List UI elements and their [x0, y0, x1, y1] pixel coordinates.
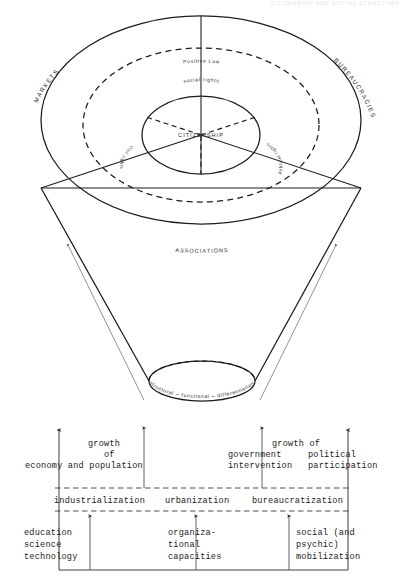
process-bureaucratization: bureaucratization — [252, 496, 343, 506]
cone-side-left — [41, 188, 149, 381]
associations-text: ASSOCIATIONS — [175, 247, 229, 254]
label-civil-rights: civil rights — [119, 145, 134, 170]
growth-economy-line1: growth — [88, 439, 120, 449]
growth-government-line1: growth of — [272, 439, 320, 449]
resource-organizational-line2: tional — [168, 540, 200, 550]
cone-arrow-right — [260, 245, 336, 400]
label-political-rights: political rights — [265, 142, 283, 175]
label-citizenship: CITIZENSHIP — [178, 132, 224, 138]
table-row: industrialization urbanization bureaucra… — [54, 496, 343, 506]
resource-organizational-line1: organiza- — [168, 528, 216, 538]
cone-side-right — [255, 188, 361, 381]
resource-education-line1: education — [24, 528, 72, 538]
table-row: growth of economy and population growth … — [25, 439, 378, 471]
resource-mobilization-line2: psychic) — [296, 540, 339, 550]
growth-economy-line2: of — [104, 450, 115, 460]
resource-education-line3: technology — [24, 552, 78, 562]
growth-economy-line3: economy and population — [25, 461, 143, 471]
political-rights-text: political rights — [265, 142, 283, 175]
cone-base-dashed-arc — [149, 361, 255, 381]
growth-political-line3: participation — [308, 461, 378, 471]
citizenship-text: CITIZENSHIP — [178, 132, 224, 138]
label-associations: ASSOCIATIONS — [175, 247, 229, 254]
resource-education-line2: science — [24, 540, 62, 550]
bureaucracies-text: BUREAUCRACIES — [333, 56, 378, 119]
growth-government-line3: intervention — [228, 461, 292, 471]
resource-mobilization-line1: social (and — [296, 528, 355, 538]
base-text: structural – functional – differentiatio… — [149, 380, 256, 399]
figure-canvas: MARKETS BUREAUCRACIES ASSOCIATIONS Posit… — [0, 0, 402, 586]
process-industrialization: industrialization — [54, 496, 145, 506]
process-urbanization: urbanization — [165, 496, 229, 506]
markets-text: MARKETS — [32, 67, 60, 104]
civil-rights-text: civil rights — [119, 145, 134, 170]
resource-organizational-line3: capacities — [168, 552, 222, 562]
positive-law-text: Positive Law — [183, 58, 220, 65]
cone-arrow-left — [68, 245, 144, 400]
label-positive-law: Positive Law — [183, 58, 220, 65]
table-row: education science technology organiza- t… — [24, 528, 360, 562]
growth-political-line2: political — [308, 450, 356, 460]
resource-mobilization-line3: mobilization — [296, 552, 360, 562]
label-base-differentiation: structural – functional – differentiatio… — [149, 380, 256, 399]
growth-government-line2: government — [228, 450, 282, 460]
label-markets: MARKETS — [32, 67, 60, 104]
figure-root: CITIZENSHIP AND SOCIAL STRUCTURE — [0, 0, 402, 586]
label-bureaucracies: BUREAUCRACIES — [333, 56, 378, 119]
